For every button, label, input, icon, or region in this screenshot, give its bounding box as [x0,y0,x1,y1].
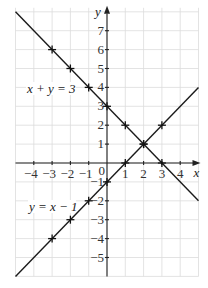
graph-chart: 7654321−1−2−3−4−5−4−3−2−112340xyx + y = … [0,0,208,288]
y-axis-arrow-icon [104,6,110,14]
y-tick-label: 1 [98,136,105,151]
y-tick-label: 3 [98,98,105,113]
y-tick-label: −2 [90,193,104,208]
y-tick-label: 7 [98,23,105,38]
y-tick-label: −3 [90,212,104,227]
y-tick-label: −5 [90,250,104,265]
y-tick-label: 5 [98,61,105,76]
x-tick-label: 4 [177,166,184,181]
axis-labels: 7654321−1−2−3−4−5−4−3−2−112340xyx + y = … [24,4,200,265]
origin-label: 0 [99,163,106,178]
x-tick-label: −2 [60,166,74,181]
axes [16,6,201,277]
y-tick-label: −4 [90,231,104,246]
y-tick-label: 6 [98,42,105,57]
x-tick-label: −1 [79,166,93,181]
x-tick-label: 3 [159,166,166,181]
y-tick-label: 4 [98,79,105,94]
x-tick-label: −4 [24,166,38,181]
x-tick-label: 2 [140,166,147,181]
x-tick-label: 1 [122,166,129,181]
equation-label-1: x + y = 3 [26,81,76,96]
x-axis-label: x [193,165,200,180]
y-tick-label: 2 [98,117,105,132]
equation-label-2: y = x − 1 [27,199,78,214]
y-axis-label: y [93,4,101,19]
x-tick-label: −3 [42,166,56,181]
